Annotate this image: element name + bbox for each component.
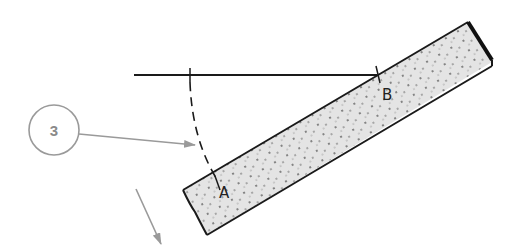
dashed-arc (190, 82, 218, 181)
callout-arrow-icon (79, 134, 195, 145)
callout-number: 3 (50, 122, 58, 139)
board (183, 22, 492, 235)
diagram-canvas: A B 3 (0, 0, 521, 252)
label-point-a: A (219, 184, 230, 202)
direction-arrow-icon (136, 189, 161, 244)
label-point-b: B (382, 86, 392, 104)
